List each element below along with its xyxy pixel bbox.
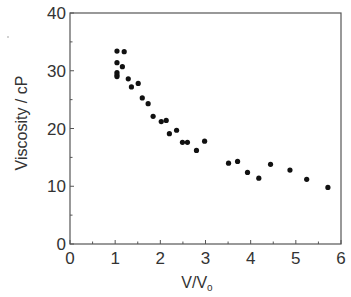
data-point bbox=[268, 162, 273, 167]
data-point bbox=[194, 148, 199, 153]
x-tick-label: 2 bbox=[156, 249, 165, 268]
data-point bbox=[167, 131, 172, 136]
data-point bbox=[146, 101, 151, 106]
x-axis-label-main: V/V bbox=[181, 274, 207, 291]
y-tick-label: 30 bbox=[47, 62, 66, 81]
data-point bbox=[114, 60, 119, 65]
data-point bbox=[304, 177, 309, 182]
data-point bbox=[129, 84, 134, 89]
data-point bbox=[287, 167, 292, 172]
y-tick-label: 0 bbox=[57, 235, 66, 254]
x-tick-label: 1 bbox=[110, 249, 119, 268]
x-axis-label-subscript: o bbox=[207, 282, 213, 293]
plot-frame bbox=[70, 13, 341, 244]
data-point bbox=[136, 81, 141, 86]
x-tick-label: 4 bbox=[246, 249, 255, 268]
x-tick-label: 0 bbox=[65, 249, 74, 268]
x-axis-label: V/Vo bbox=[181, 274, 213, 293]
y-tick-label: 20 bbox=[47, 120, 66, 139]
data-points bbox=[114, 49, 330, 190]
x-tick-label: 3 bbox=[201, 249, 210, 268]
data-point bbox=[151, 114, 156, 119]
data-point bbox=[325, 185, 330, 190]
data-point bbox=[114, 49, 119, 54]
data-point bbox=[245, 170, 250, 175]
y-tick-label: 40 bbox=[47, 4, 66, 23]
data-point bbox=[256, 176, 261, 181]
data-point bbox=[164, 118, 169, 123]
data-point bbox=[114, 74, 119, 79]
data-point bbox=[126, 76, 131, 81]
scatter-chart: 0123456 010203040 Viscosity / cP V/Vo bbox=[0, 0, 351, 297]
x-tick-label: 6 bbox=[336, 249, 345, 268]
x-tick-label: 5 bbox=[291, 249, 300, 268]
data-point bbox=[122, 49, 127, 54]
scan-artifact bbox=[7, 36, 9, 38]
plot-border bbox=[70, 13, 341, 244]
data-point bbox=[174, 128, 179, 133]
y-tick-label: 10 bbox=[47, 177, 66, 196]
y-axis-label: Viscosity / cP bbox=[13, 76, 30, 171]
data-point bbox=[180, 140, 185, 145]
data-point bbox=[185, 140, 190, 145]
data-point bbox=[202, 139, 207, 144]
data-point bbox=[159, 119, 164, 124]
data-point bbox=[120, 64, 125, 69]
data-point bbox=[235, 159, 240, 164]
data-point bbox=[226, 161, 231, 166]
data-point bbox=[140, 95, 145, 100]
